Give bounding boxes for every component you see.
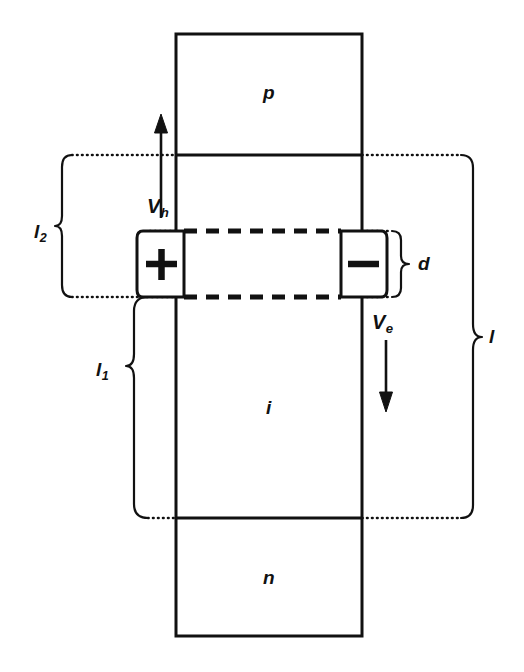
brace-l2 <box>55 155 72 297</box>
device-body-outline <box>176 34 362 636</box>
brace-l <box>461 155 482 518</box>
velocity-v-h-base: V <box>147 195 160 217</box>
figure-canvas: p i n Vh Ve l2 l1 d l <box>0 0 524 672</box>
region-label-p: p <box>263 83 275 102</box>
dimension-l2-subscript: 2 <box>39 231 46 245</box>
dimension-l1-subscript: 1 <box>101 369 108 383</box>
v-h-arrow-head <box>155 114 168 133</box>
pin-diode-diagram <box>0 0 524 672</box>
velocity-label-v-e: Ve <box>372 312 393 335</box>
v-e-arrow-head <box>380 392 393 412</box>
velocity-v-e-subscript: e <box>385 321 393 336</box>
velocity-v-e-base: V <box>372 311 385 333</box>
region-label-i: i <box>266 398 271 417</box>
region-label-n: n <box>263 568 275 587</box>
dimension-label-d: d <box>418 254 430 273</box>
brace-l1 <box>126 297 148 518</box>
dimension-label-l: l <box>489 327 494 346</box>
dimension-label-l1: l1 <box>96 360 109 382</box>
velocity-label-v-h: Vh <box>147 196 169 219</box>
dimension-label-l2: l2 <box>34 222 47 244</box>
velocity-v-h-subscript: h <box>160 205 169 220</box>
brace-d <box>392 231 409 297</box>
